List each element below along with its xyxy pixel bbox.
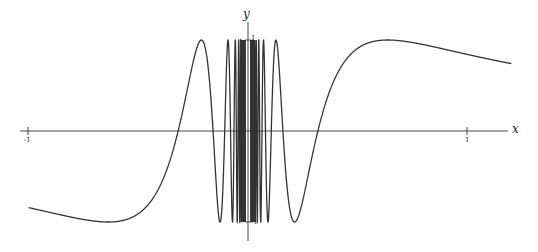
y-tick-label-top: 1 bbox=[251, 34, 255, 42]
y-axis-label: y bbox=[243, 7, 250, 21]
y-tick-label-bottom: -1 bbox=[251, 218, 258, 226]
x-axis-label: x bbox=[512, 122, 519, 136]
x-tick-label-neg: -1 bbox=[24, 136, 31, 144]
plot-area bbox=[0, 0, 538, 252]
x-tick-label-pos: 1 bbox=[465, 136, 469, 144]
